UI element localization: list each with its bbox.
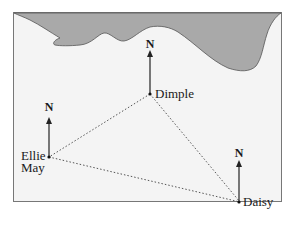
label-may: May [21,160,45,175]
point-ellie-may [47,155,50,158]
bearing-diagram: N N N Dimple Ellie May Daisy [0,0,294,230]
north-label: N [45,100,54,114]
point-daisy [237,200,240,203]
label-dimple: Dimple [155,86,194,101]
north-label: N [146,37,155,51]
north-label: N [235,146,244,160]
label-daisy: Daisy [243,194,274,209]
point-dimple [148,92,151,95]
